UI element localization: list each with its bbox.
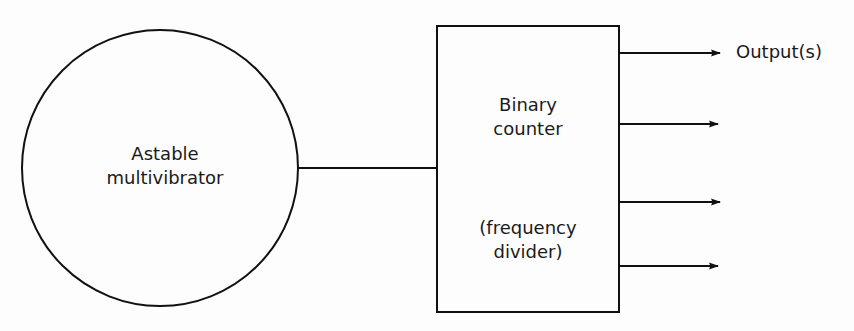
astable-multivibrator-label: Astable multivibrator — [60, 142, 270, 190]
astable-label-line-2: multivibrator — [60, 166, 270, 190]
binary-counter-box — [437, 26, 619, 312]
binary-counter-label: Binary counter — [437, 93, 619, 141]
divider-label-line-2: divider) — [437, 240, 619, 264]
outputs-label: Output(s) — [736, 40, 822, 64]
counter-label-line-2: counter — [437, 117, 619, 141]
output-arrows — [619, 53, 720, 266]
astable-label-line-1: Astable — [60, 142, 270, 166]
diagram-canvas: Astable multivibrator Binary counter (fr… — [0, 0, 854, 331]
divider-label-line-1: (frequency — [437, 216, 619, 240]
counter-label-line-1: Binary — [437, 93, 619, 117]
frequency-divider-label: (frequency divider) — [437, 216, 619, 264]
